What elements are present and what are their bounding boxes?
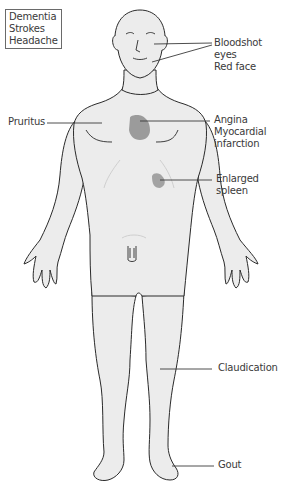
body-figure	[0, 0, 288, 494]
body-diagram: Dementia Strokes Headache Bloodshot eyes…	[0, 0, 288, 494]
right-leg	[142, 292, 184, 480]
label-eyes: eyes	[214, 49, 262, 61]
label-angina: Angina	[214, 114, 266, 126]
label-headache: Headache	[9, 35, 58, 47]
gout-label: Gout	[218, 459, 241, 471]
claudication-label: Claudication	[218, 362, 278, 374]
label-pruritus: Pruritus	[8, 116, 45, 128]
head-symptoms-box: Dementia Strokes Headache	[5, 9, 62, 49]
spleen-label: Enlarged spleen	[216, 173, 259, 197]
label-bloodshot: Bloodshot	[214, 37, 262, 49]
pruritus-label: Pruritus	[8, 116, 45, 128]
heart-label: Angina Myocardial infarction	[214, 114, 266, 150]
label-spleen: spleen	[216, 185, 259, 197]
label-claudication: Claudication	[218, 362, 278, 374]
label-red-face: Red face	[214, 61, 262, 73]
left-leg	[92, 292, 136, 481]
label-dementia: Dementia	[9, 11, 58, 23]
label-myocardial: Myocardial	[214, 126, 266, 138]
label-strokes: Strokes	[9, 23, 58, 35]
label-enlarged: Enlarged	[216, 173, 259, 185]
label-infarction: infarction	[214, 138, 266, 150]
eyes-face-label: Bloodshot eyes Red face	[214, 37, 262, 73]
label-gout: Gout	[218, 459, 241, 471]
